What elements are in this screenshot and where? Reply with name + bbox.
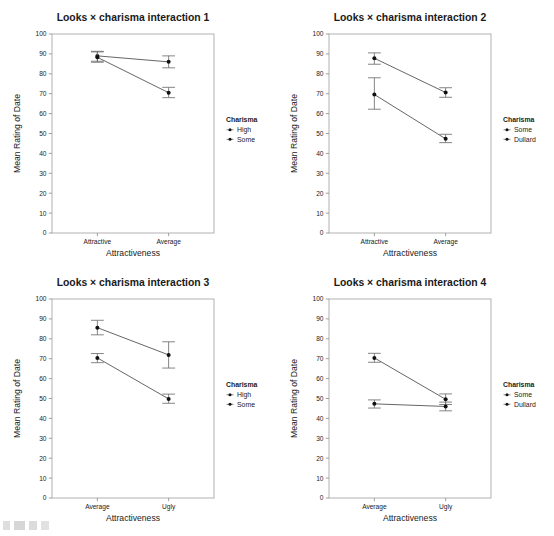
y-axis-tick-label: 10: [316, 475, 324, 482]
figure-grid: Looks × charisma interaction 10102030405…: [0, 0, 554, 536]
data-point-marker: [372, 402, 376, 406]
data-point-marker: [444, 137, 448, 141]
y-axis-tick-label: 50: [316, 130, 324, 137]
x-axis-tick-label: Average: [362, 503, 387, 511]
legend-marker-dot: [506, 403, 509, 406]
data-point-marker: [167, 397, 171, 401]
y-axis-tick-label: 80: [39, 70, 47, 77]
y-axis-tick-label: 20: [39, 190, 47, 197]
legend-marker-dot: [229, 393, 232, 396]
legend-title: Charisma: [503, 381, 535, 388]
x-axis-tick-label: Attractive: [84, 238, 112, 245]
series-line: [97, 56, 168, 62]
data-point-marker: [372, 56, 376, 60]
data-point-marker: [444, 91, 448, 95]
y-axis-tick-label: 0: [320, 494, 324, 501]
legend-marker-dot: [229, 403, 232, 406]
legend: CharismaHighSome: [226, 116, 258, 143]
chart-svg-4: Looks × charisma interaction 40102030405…: [277, 265, 554, 533]
y-axis-tick-label: 80: [39, 335, 47, 342]
y-axis-tick-label: 90: [316, 50, 324, 57]
y-axis-tick-label: 70: [39, 90, 47, 97]
chart-title: Looks × charisma interaction 1: [57, 12, 210, 23]
y-axis-tick-label: 70: [316, 355, 324, 362]
series-some: [368, 353, 452, 404]
y-axis-tick-label: 40: [316, 415, 324, 422]
legend: CharismaSomeDullard: [503, 116, 536, 143]
y-axis-tick-label: 100: [35, 30, 46, 37]
y-axis-tick-label: 0: [43, 229, 47, 236]
y-axis-tick-label: 100: [312, 30, 323, 37]
y-axis-tick-label: 30: [316, 170, 324, 177]
y-axis-tick-label: 50: [39, 130, 47, 137]
legend-item-label: Some: [237, 401, 255, 408]
y-axis-tick-label: 0: [43, 494, 47, 501]
x-axis-tick-label: Average: [85, 503, 110, 511]
y-axis-tick-label: 20: [316, 455, 324, 462]
y-axis-tick-label: 30: [39, 435, 47, 442]
series-high: [91, 51, 175, 68]
y-axis-tick-label: 80: [316, 70, 324, 77]
y-axis-tick-label: 100: [35, 295, 46, 302]
y-axis-tick-label: 70: [39, 355, 47, 362]
legend-item-label: Dullard: [514, 136, 536, 143]
series-line: [97, 328, 168, 355]
y-axis-tick-label: 60: [39, 375, 47, 382]
data-point-marker: [372, 356, 376, 360]
y-axis-tick-label: 60: [316, 110, 324, 117]
legend-item-label: High: [237, 391, 251, 399]
y-axis-tick-label: 80: [316, 335, 324, 342]
chart-svg-3: Looks × charisma interaction 30102030405…: [0, 265, 277, 533]
legend-marker-dot: [229, 138, 232, 141]
legend-item-label: Some: [514, 391, 532, 398]
bottom-edge-artifact: [3, 521, 49, 530]
plot-frame: [52, 34, 214, 233]
legend-item-label: High: [237, 126, 251, 134]
legend-title: Charisma: [226, 116, 258, 123]
legend-title: Charisma: [226, 381, 258, 388]
y-axis-tick-label: 10: [39, 475, 47, 482]
y-axis-tick-label: 40: [39, 150, 47, 157]
legend-marker-dot: [506, 138, 509, 141]
y-axis-tick-label: 20: [316, 190, 324, 197]
y-axis-tick-label: 70: [316, 90, 324, 97]
chart-svg-2: Looks × charisma interaction 20102030405…: [277, 0, 554, 268]
legend-marker-dot: [229, 128, 232, 131]
chart-title: Looks × charisma interaction 2: [334, 12, 487, 23]
y-axis-tick-label: 100: [312, 295, 323, 302]
x-axis-label: Attractiveness: [383, 248, 437, 258]
y-axis-label: Mean Rating of Date: [12, 94, 22, 173]
chart-panel-3: Looks × charisma interaction 30102030405…: [0, 265, 277, 533]
legend: CharismaHighSome: [226, 381, 258, 408]
series-line: [374, 94, 445, 138]
data-point-marker: [167, 60, 171, 64]
y-axis-tick-label: 0: [320, 229, 324, 236]
plot-frame: [52, 299, 214, 498]
y-axis-tick-label: 50: [39, 395, 47, 402]
x-axis-tick-label: Ugly: [439, 503, 453, 511]
data-point-marker: [95, 326, 99, 330]
data-point-marker: [95, 55, 99, 59]
y-axis-tick-label: 90: [316, 315, 324, 322]
series-high: [91, 320, 175, 368]
legend-item-label: Dullard: [514, 401, 536, 408]
chart-title: Looks × charisma interaction 4: [334, 277, 487, 288]
y-axis-label: Mean Rating of Date: [12, 359, 22, 438]
plot-frame: [329, 34, 491, 233]
chart-panel-4: Looks × charisma interaction 40102030405…: [277, 265, 554, 533]
x-axis-tick-label: Average: [156, 238, 181, 246]
legend-marker-dot: [506, 128, 509, 131]
y-axis-tick-label: 20: [39, 455, 47, 462]
x-axis-tick-label: Average: [433, 238, 458, 246]
x-axis-tick-label: Ugly: [162, 503, 176, 511]
series-line: [97, 358, 168, 399]
legend-marker-dot: [506, 393, 509, 396]
y-axis-tick-label: 10: [39, 210, 47, 217]
plot-frame: [329, 299, 491, 498]
series-some: [91, 354, 175, 404]
y-axis-tick-label: 90: [39, 315, 47, 322]
x-axis-label: Attractiveness: [383, 513, 437, 523]
y-axis-label: Mean Rating of Date: [289, 359, 299, 438]
legend-item-label: Some: [237, 136, 255, 143]
y-axis-tick-label: 40: [316, 150, 324, 157]
